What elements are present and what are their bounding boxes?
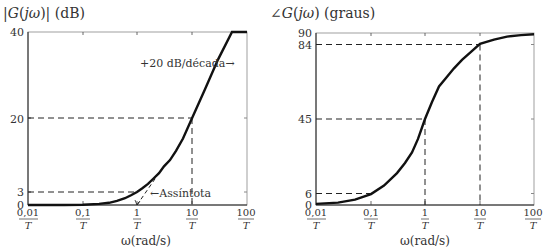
magnitude-x-tick-labels: 0,01 T 0,1 T 1 T 10 T 100 T	[17, 207, 256, 231]
svg-text:T: T	[368, 220, 376, 231]
svg-text:0,1: 0,1	[75, 207, 91, 218]
svg-text:T: T	[422, 220, 430, 231]
svg-text:100: 100	[236, 207, 255, 218]
magnitude-y-ticks: 40 20 3 0	[10, 26, 247, 212]
svg-text:3: 3	[17, 186, 24, 199]
svg-text:40: 40	[10, 26, 24, 39]
svg-text:0,01: 0,01	[17, 207, 39, 218]
phase-plot: ∠G(jω) (graus) 90 84 45 6 0	[270, 5, 543, 248]
svg-text:T: T	[530, 220, 538, 231]
svg-text:T: T	[189, 220, 197, 231]
magnitude-plot: |G(jω)| (dB) 40 20 3 0	[3, 5, 256, 248]
svg-text:T: T	[80, 220, 88, 231]
svg-text:10: 10	[474, 207, 487, 218]
phase-title: ∠G(jω) (graus)	[270, 5, 375, 21]
svg-text:T: T	[243, 220, 251, 231]
svg-text:0,1: 0,1	[363, 207, 379, 218]
svg-text:100: 100	[523, 207, 542, 218]
bode-plots: |G(jω)| (dB) 40 20 3 0	[0, 0, 549, 250]
svg-text:T: T	[25, 220, 33, 231]
svg-text:10: 10	[186, 207, 199, 218]
phase-x-tick-labels: 0,01 T 0,1 T 1 T 10 T 100 T	[305, 207, 543, 231]
svg-text:T: T	[313, 220, 321, 231]
svg-text:84: 84	[298, 39, 312, 52]
svg-text:1: 1	[134, 207, 140, 218]
svg-text:20: 20	[10, 113, 24, 126]
svg-text:T: T	[477, 220, 485, 231]
svg-text:1: 1	[422, 207, 428, 218]
svg-text:45: 45	[298, 113, 312, 126]
phase-x-label: ω(rad/s)	[400, 234, 450, 248]
svg-text:T: T	[134, 220, 142, 231]
svg-text:0,01: 0,01	[305, 207, 327, 218]
phase-reference-lines	[316, 45, 480, 206]
magnitude-x-label: ω(rad/s)	[121, 234, 171, 248]
asymptote-annotation: ←Assíntota	[150, 187, 212, 200]
asymptote-arrow-icon	[135, 200, 140, 205]
magnitude-title: |G(jω)| (dB)	[3, 5, 85, 22]
slope-annotation: +20 dB/década→	[140, 57, 235, 70]
